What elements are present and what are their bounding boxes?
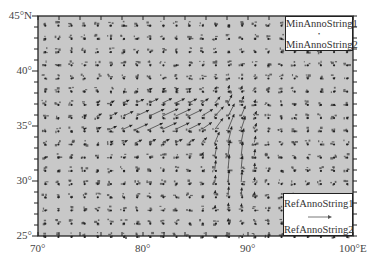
min-legend-line2: MinAnnoString2 <box>286 39 352 51</box>
min-legend-line1: MinAnnoString1 <box>286 18 352 30</box>
reference-vector-legend: RefAnnoString1 RefAnnoString2 <box>283 193 353 236</box>
y-label: 40° <box>17 65 32 76</box>
y-label: 45°N <box>9 10 32 21</box>
reference-arrow-icon <box>284 210 352 224</box>
x-label: 90° <box>240 243 255 254</box>
min-vector-dot-icon: • <box>286 30 352 39</box>
x-label: 100°E <box>339 243 367 254</box>
y-label: 25° <box>17 230 32 241</box>
x-label: 70° <box>30 243 45 254</box>
x-label: 80° <box>135 243 150 254</box>
y-label: 30° <box>17 175 32 186</box>
ref-legend-line2: RefAnnoString2 <box>284 224 352 236</box>
y-label: 35° <box>17 120 32 131</box>
min-vector-legend: MinAnnoString1 • MinAnnoString2 <box>285 16 353 51</box>
ref-legend-line1: RefAnnoString1 <box>284 198 352 210</box>
